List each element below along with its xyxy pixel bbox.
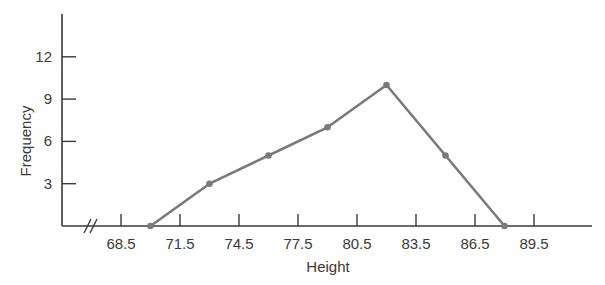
data-point-marker <box>324 124 331 131</box>
axes <box>62 14 592 233</box>
data-point-marker <box>383 82 390 89</box>
x-tick-label: 71.5 <box>165 235 194 252</box>
y-axis-label: Frequency <box>17 105 34 176</box>
data-point-marker <box>442 152 449 159</box>
x-tick-label: 74.5 <box>224 235 253 252</box>
y-tick-label: 6 <box>44 132 52 149</box>
y-tick-label: 12 <box>35 48 52 65</box>
frequency-polygon-chart: 3691268.571.574.577.580.583.586.589.5 He… <box>0 0 605 285</box>
data-point-marker <box>147 223 154 230</box>
series-line <box>151 85 505 226</box>
x-tick-label: 68.5 <box>106 235 135 252</box>
x-tick-label: 86.5 <box>460 235 489 252</box>
ticks: 3691268.571.574.577.580.583.586.589.5 <box>35 48 548 252</box>
x-tick-label: 80.5 <box>342 235 371 252</box>
data-point-marker <box>501 223 508 230</box>
data-point-marker <box>265 152 272 159</box>
x-tick-label: 77.5 <box>283 235 312 252</box>
data-point-marker <box>206 180 213 187</box>
x-tick-label: 89.5 <box>519 235 548 252</box>
y-tick-label: 9 <box>44 90 52 107</box>
y-tick-label: 3 <box>44 175 52 192</box>
x-axis-label: Height <box>306 258 350 275</box>
data-series <box>147 82 508 230</box>
x-tick-label: 83.5 <box>401 235 430 252</box>
